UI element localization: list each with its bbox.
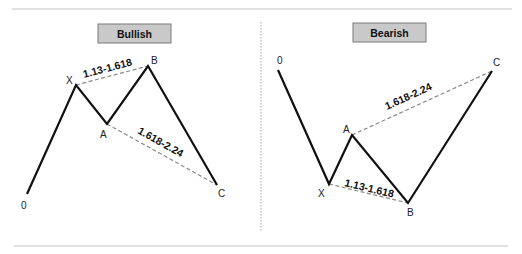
bullish-title: Bullish: [117, 28, 152, 40]
bearish-point-b-label: B: [407, 207, 414, 218]
bearish-point-a-label: A: [343, 124, 350, 135]
bearish-panel: Bearish 0 X A B C 1.618-2.24 1.13-1.618: [277, 23, 500, 218]
bullish-point-b-label: B: [151, 55, 158, 66]
bearish-pattern-line: [278, 70, 492, 203]
bearish-ac-ratio-label: 1.618-2.24: [383, 80, 434, 112]
bullish-pattern-line: [27, 66, 217, 194]
bullish-point-c-label: C: [218, 188, 225, 199]
harmonic-pattern-diagram: Bullish 0 X A B C 1.13-1.618 1.618-2.24 …: [0, 0, 522, 254]
bullish-point-a-label: A: [100, 129, 107, 140]
bearish-title: Bearish: [370, 27, 409, 39]
bearish-point-0-label: 0: [277, 55, 283, 66]
bearish-point-x-label: X: [318, 188, 325, 199]
bullish-panel: Bullish 0 X A B C 1.13-1.618 1.618-2.24: [21, 24, 225, 211]
bearish-point-c-label: C: [493, 57, 500, 68]
bullish-point-0-label: 0: [21, 200, 27, 211]
bullish-point-x-label: X: [66, 75, 73, 86]
